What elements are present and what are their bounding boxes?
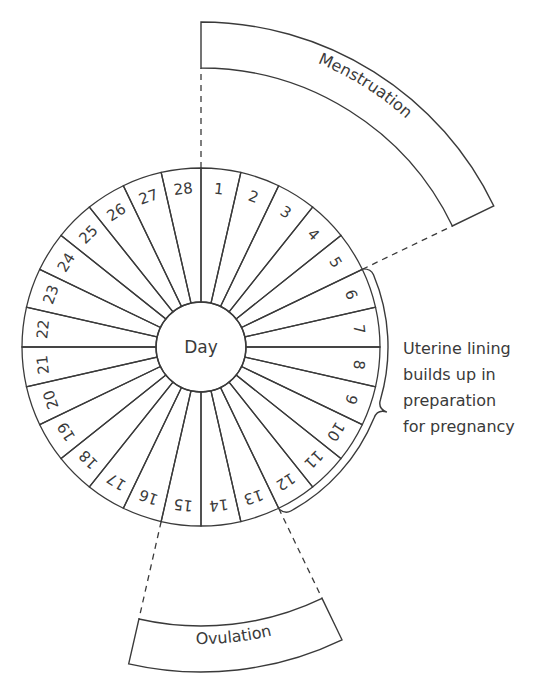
day-label-6: 6 — [341, 287, 361, 302]
day-segment-4 — [229, 207, 341, 319]
menstruation-band — [201, 22, 494, 226]
day-label-10: 10 — [323, 419, 348, 445]
day-label-19: 19 — [54, 419, 79, 445]
day-label-27: 27 — [137, 185, 161, 208]
uterine-lining-note: Uterine lining builds up in preparation … — [403, 336, 515, 440]
day-segment-12 — [221, 382, 313, 508]
day-segment-18 — [61, 375, 173, 487]
day-segment-17 — [89, 382, 181, 508]
day-segment-26 — [89, 186, 181, 312]
day-label-26: 26 — [104, 200, 130, 225]
day-label-16: 16 — [137, 485, 161, 508]
day-label-20: 20 — [39, 388, 62, 412]
note-line-4: for pregnancy — [403, 414, 515, 440]
day-segment-19 — [40, 367, 166, 459]
day-label-14: 14 — [208, 495, 229, 515]
day-label-4: 4 — [304, 225, 323, 244]
day-label-11: 11 — [300, 446, 326, 472]
day-label-2: 2 — [246, 187, 261, 207]
day-label-28: 28 — [173, 179, 194, 199]
dashed-line-ovulation-end — [139, 522, 161, 619]
dashed-line-menstruation-end — [362, 226, 452, 269]
day-label-9: 9 — [341, 392, 361, 407]
dashed-line-ovulation-start — [279, 508, 322, 598]
day-label-25: 25 — [75, 221, 101, 247]
day-label-8: 8 — [350, 359, 369, 371]
day-label-13: 13 — [242, 485, 266, 508]
menstruation-label: Menstruation — [316, 49, 416, 122]
uterine-lining-brace — [279, 269, 388, 512]
day-segment-25 — [61, 207, 173, 319]
center-hub: Day — [156, 302, 246, 392]
day-label-17: 17 — [104, 469, 130, 494]
note-line-1: Uterine lining — [403, 336, 515, 362]
day-segment-3 — [221, 186, 313, 312]
day-label-7: 7 — [350, 323, 369, 335]
day-label-23: 23 — [39, 283, 62, 307]
day-segment-11 — [229, 375, 341, 487]
ovulation-label: Ovulation — [196, 621, 273, 648]
day-label-5: 5 — [325, 254, 345, 272]
day-label-18: 18 — [75, 446, 101, 472]
day-label-15: 15 — [173, 495, 194, 515]
day-label-12: 12 — [273, 469, 299, 494]
center-day-label: Day — [184, 337, 218, 357]
day-label-1: 1 — [213, 180, 225, 199]
note-line-3: preparation — [403, 388, 515, 414]
day-label-24: 24 — [54, 250, 79, 276]
note-line-2: builds up in — [403, 362, 515, 388]
day-segment-5 — [236, 235, 362, 327]
day-label-21: 21 — [33, 354, 53, 375]
day-label-3: 3 — [277, 202, 295, 222]
day-segment-10 — [236, 367, 362, 459]
day-label-22: 22 — [33, 319, 53, 340]
day-segment-24 — [40, 235, 166, 327]
